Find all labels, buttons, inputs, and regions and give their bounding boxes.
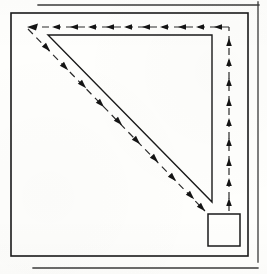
inner-right-triangle bbox=[48, 35, 212, 202]
right-upward-dashed-segment bbox=[226, 27, 232, 211]
diagram-page bbox=[0, 0, 267, 274]
top-leftward-dashed-segment bbox=[26, 23, 229, 30]
corner-detail-square bbox=[208, 214, 240, 246]
diagonal-downright-dashed-segment bbox=[28, 29, 207, 213]
engineering-diagram bbox=[0, 0, 267, 274]
right-arrowheads bbox=[226, 38, 232, 206]
